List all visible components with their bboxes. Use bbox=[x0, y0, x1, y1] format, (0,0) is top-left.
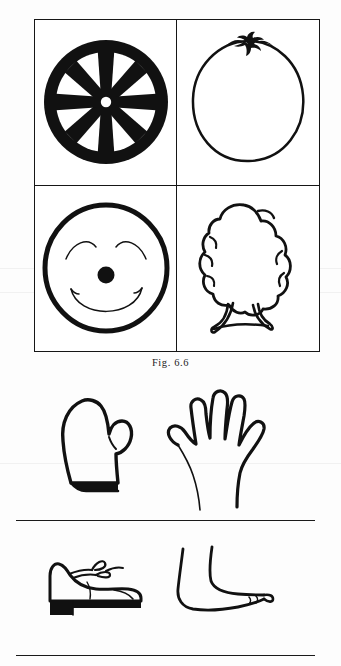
hand-figure: hand bbox=[158, 383, 270, 515]
foot-panel: shoe bbox=[0, 535, 341, 645]
hand-panel: mitten hand bbox=[0, 383, 341, 513]
divider-rule-bottom bbox=[16, 655, 315, 656]
mitten-icon bbox=[52, 391, 144, 501]
figure-grid-frame: wheel bbox=[34, 19, 320, 352]
figure-cell-bird: bird bbox=[177, 186, 319, 352]
figure-cell-orange: orange bbox=[177, 20, 319, 186]
orange-fruit-icon bbox=[184, 27, 312, 177]
figure-caption: Fig. 6.6 bbox=[0, 357, 341, 368]
open-hand-icon bbox=[158, 383, 270, 511]
shoe-figure: shoe bbox=[40, 551, 148, 623]
laced-shoe-icon bbox=[40, 551, 148, 619]
smiling-face-icon bbox=[40, 193, 172, 343]
bird-chick-icon bbox=[184, 193, 312, 343]
wagon-wheel-icon bbox=[40, 27, 172, 177]
foot-figure: foot bbox=[170, 545, 278, 627]
mitten-figure: mitten bbox=[52, 391, 144, 505]
bare-foot-icon bbox=[170, 545, 278, 623]
figure-cell-face: face bbox=[35, 186, 177, 352]
divider-rule-middle bbox=[16, 520, 315, 521]
figure-cell-wheel: wheel bbox=[35, 20, 177, 186]
scanned-page: wheel bbox=[0, 0, 341, 666]
